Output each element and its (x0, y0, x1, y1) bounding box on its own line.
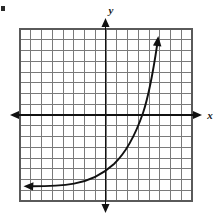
x-axis-label: x (206, 109, 213, 121)
axes (10, 18, 202, 213)
coordinate-plane-svg: y x (0, 0, 220, 222)
corner-mark-icon (1, 6, 5, 11)
x-axis-arrow-right-icon (193, 111, 202, 119)
exponential-curve (24, 36, 162, 190)
graph-figure: y x (0, 0, 220, 222)
y-axis-label: y (107, 4, 114, 16)
y-axis-arrow-down-icon (102, 204, 110, 213)
curve-arrow-left-icon (24, 182, 34, 190)
y-axis-arrow-up-icon (102, 18, 110, 27)
x-axis-arrow-left-icon (10, 111, 19, 119)
